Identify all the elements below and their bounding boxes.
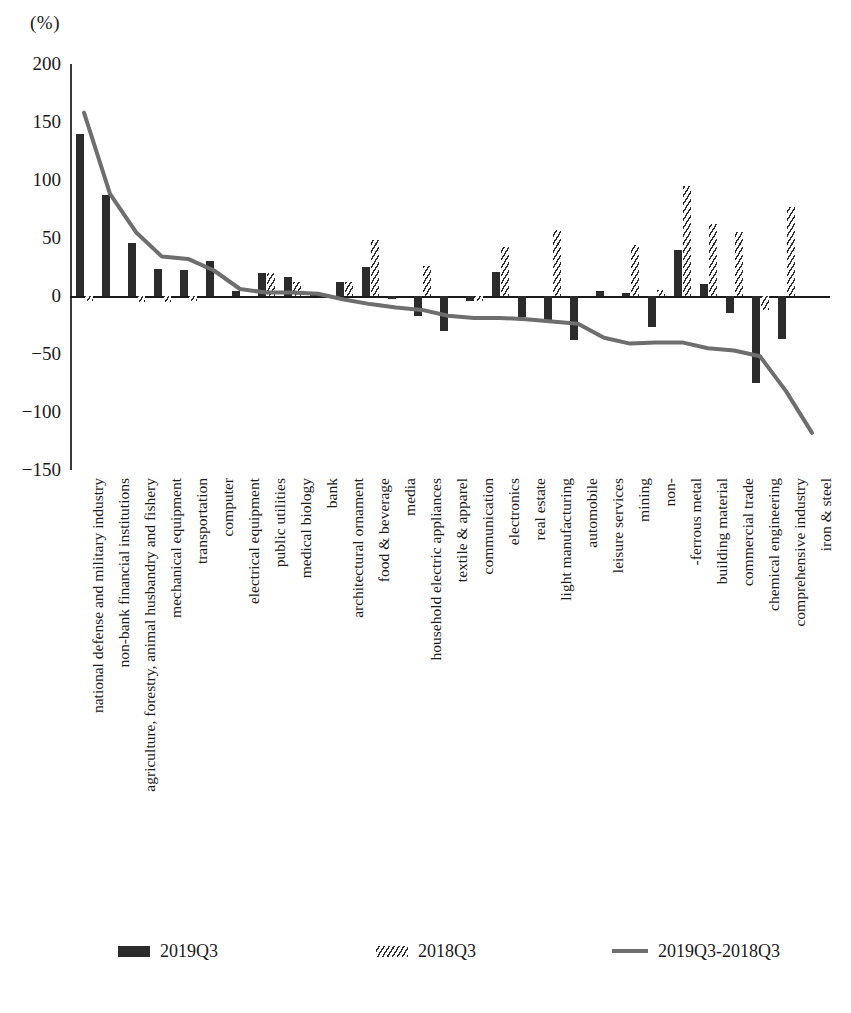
category-label: mining: [636, 478, 652, 522]
y-axis-tick-label: 100: [33, 169, 71, 191]
chart-legend: 2019Q32018Q32019Q3-2018Q3: [118, 938, 778, 968]
bar-2019q3: [700, 284, 708, 296]
category-label: chemical engineering: [766, 478, 782, 611]
hatched-bar-swatch: [376, 946, 408, 957]
category-label: public utilities: [272, 478, 288, 567]
category-axis-labels: national defense and military industryno…: [70, 478, 830, 848]
bar-2019q3: [180, 270, 188, 296]
category-label: commercial trade: [740, 478, 756, 586]
category-label: national defense and military industry: [90, 478, 106, 713]
bar-2019q3: [414, 296, 422, 316]
category-label: comprehensive industry: [792, 478, 808, 627]
category-label: electronics: [506, 478, 522, 545]
bar-2019q3: [466, 296, 474, 301]
category-label: non-bank financial institutions: [116, 478, 132, 667]
bar-2019q3: [76, 134, 84, 296]
category-label: bank: [324, 478, 340, 508]
category-label: medical biology: [298, 478, 314, 578]
y-axis-tick-label: 50: [42, 227, 70, 249]
category-label: mechanical equipment: [168, 478, 184, 618]
category-label: architectural ornament: [350, 478, 366, 618]
category-label: electrical equipment: [246, 478, 262, 604]
bar-2019q3: [596, 291, 604, 296]
bar-2019q3: [232, 291, 240, 296]
bar-2019q3: [778, 296, 786, 339]
bar-2019q3: [258, 273, 266, 296]
bar-2019q3: [440, 296, 448, 331]
chart-plot-area: 200150100500−50−100−150: [70, 64, 830, 470]
bar-2019q3: [362, 267, 370, 296]
bar-2019q3: [622, 293, 630, 296]
legend-item: 2019Q3-2018Q3: [612, 938, 780, 964]
bar-2019q3: [726, 296, 734, 313]
y-axis-tick-label: 0: [52, 285, 71, 307]
solid-bars-layer: [70, 64, 830, 470]
bar-2019q3: [388, 296, 396, 299]
y-axis-unit-label: (%): [30, 12, 60, 34]
legend-label: 2019Q3: [160, 941, 218, 962]
category-label: iron & steel: [818, 478, 834, 551]
bar-2019q3: [648, 296, 656, 327]
solid-bar-swatch: [118, 946, 150, 957]
bar-2019q3: [570, 296, 578, 340]
category-label: building material: [714, 478, 730, 584]
bar-2019q3: [128, 243, 136, 296]
legend-label: 2018Q3: [418, 941, 476, 962]
bar-2019q3: [544, 296, 552, 320]
category-label: light manufacturing: [558, 478, 574, 601]
bar-2019q3: [206, 261, 214, 296]
category-label: automobile: [584, 478, 600, 548]
line-swatch: [612, 949, 648, 953]
y-axis-tick-label: 150: [33, 111, 71, 133]
bar-2019q3: [154, 269, 162, 296]
y-axis-tick-label: −150: [22, 459, 70, 481]
category-label: real estate: [532, 478, 548, 540]
bar-2019q3: [284, 277, 292, 296]
legend-label: 2019Q3-2018Q3: [658, 941, 780, 962]
category-label: household electric appliances: [428, 478, 444, 660]
category-label: transportation: [194, 478, 210, 564]
bar-2019q3: [102, 195, 110, 296]
category-label: food & beverage: [376, 478, 392, 582]
category-label: -ferrous metal: [688, 478, 704, 565]
bar-2019q3: [518, 296, 526, 317]
y-axis-tick-label: 200: [33, 53, 71, 75]
bar-2019q3: [752, 296, 760, 383]
legend-item: 2018Q3: [376, 938, 476, 964]
category-label: textile & apparel: [454, 478, 470, 582]
category-label: non-: [662, 478, 678, 506]
category-label: media: [402, 478, 418, 516]
bar-2019q3: [310, 294, 318, 296]
category-label: leisure services: [610, 478, 626, 573]
legend-item: 2019Q3: [118, 938, 218, 964]
y-axis-tick-label: −100: [22, 401, 70, 423]
bar-2019q3: [674, 250, 682, 296]
bar-2019q3: [492, 272, 500, 296]
y-axis-tick-label: −50: [31, 343, 70, 365]
bar-2019q3: [336, 282, 344, 296]
category-label: communication: [480, 478, 496, 574]
category-label: computer: [220, 478, 236, 537]
category-label: agriculture, forestry, animal husbandry …: [142, 478, 158, 792]
